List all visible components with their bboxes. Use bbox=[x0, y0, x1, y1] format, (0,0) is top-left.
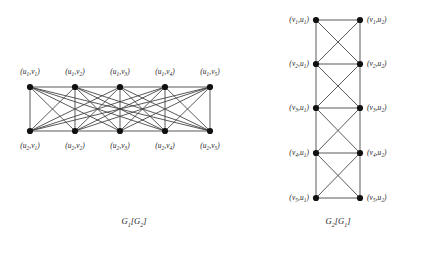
node-l2 bbox=[313, 61, 319, 67]
node-r4 bbox=[357, 150, 363, 156]
node-label-l3: (v3,u1) bbox=[289, 103, 309, 113]
node-label-t4: (u1,v4) bbox=[155, 67, 175, 77]
node-label-l5: (v5,u1) bbox=[289, 193, 309, 203]
node-b3 bbox=[117, 128, 123, 134]
node-label-r3: (v3,u2) bbox=[367, 103, 387, 113]
node-label-l2: (v2,u1) bbox=[289, 59, 309, 69]
node-b1 bbox=[27, 128, 33, 134]
node-label-r5: (v5,u2) bbox=[367, 193, 387, 203]
node-label-l4: (v4,u1) bbox=[289, 148, 309, 158]
node-r3 bbox=[357, 105, 363, 111]
node-label-b4: (u2,v4) bbox=[155, 141, 175, 151]
node-label-r4: (v4,u2) bbox=[367, 148, 387, 158]
node-label-t3: (u1,v3) bbox=[110, 67, 130, 77]
node-r5 bbox=[357, 195, 363, 201]
node-b2 bbox=[72, 128, 78, 134]
node-l5 bbox=[313, 195, 319, 201]
node-t4 bbox=[162, 84, 168, 90]
node-t5 bbox=[207, 84, 213, 90]
node-label-r1: (v1,u2) bbox=[367, 15, 387, 25]
node-b5 bbox=[207, 128, 213, 134]
node-label-l1: (v1,u1) bbox=[289, 15, 309, 25]
node-t1 bbox=[27, 84, 33, 90]
node-b4 bbox=[162, 128, 168, 134]
node-label-t1: (u1,v1) bbox=[20, 67, 40, 77]
node-t3 bbox=[117, 84, 123, 90]
node-label-b1: (u2,v1) bbox=[20, 141, 40, 151]
node-t2 bbox=[72, 84, 78, 90]
node-label-b3: (u2,v3) bbox=[110, 141, 130, 151]
node-r2 bbox=[357, 61, 363, 67]
figure-canvas: (u1,v1)(u1,v2)(u1,v3)(u1,v4)(u1,v5)(u2,v… bbox=[0, 0, 444, 255]
node-label-r2: (v2,u2) bbox=[367, 59, 387, 69]
caption-right-graph: G2[G1] bbox=[325, 216, 350, 228]
node-l1 bbox=[313, 17, 319, 23]
node-label-b2: (u2,v2) bbox=[65, 141, 85, 151]
node-label-t5: (u1,v5) bbox=[200, 67, 220, 77]
node-label-b5: (u2,v5) bbox=[200, 141, 220, 151]
node-l3 bbox=[313, 105, 319, 111]
node-r1 bbox=[357, 17, 363, 23]
node-l4 bbox=[313, 150, 319, 156]
node-label-t2: (u1,v2) bbox=[65, 67, 85, 77]
graph-drawing bbox=[0, 0, 444, 255]
caption-left-graph: G1[G2] bbox=[121, 216, 146, 228]
